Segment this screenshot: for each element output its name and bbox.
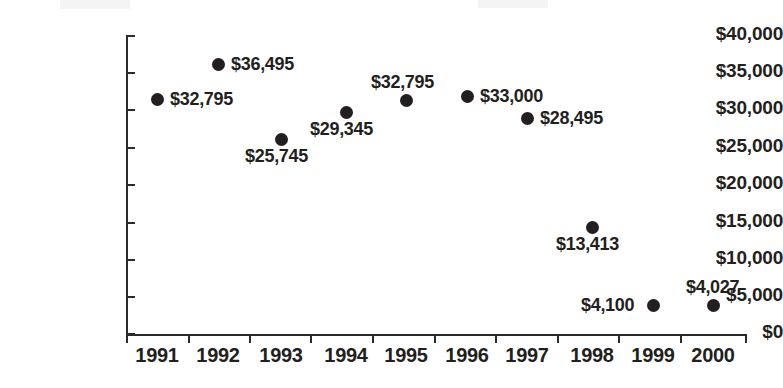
x-axis-tick (557, 334, 559, 343)
x-axis-tick (434, 334, 436, 343)
y-axis-tick (126, 72, 135, 74)
x-axis-tick (745, 334, 747, 343)
x-axis-tick-label: 2000 (673, 344, 753, 367)
y-axis-tick-label: $40,000 (665, 23, 783, 45)
scan-artifact (60, 0, 130, 9)
data-point-label: $29,345 (310, 119, 373, 140)
data-point[interactable] (707, 299, 720, 312)
data-point-label: $32,795 (170, 89, 233, 110)
y-axis-line (126, 36, 128, 336)
y-axis-tick-label: $15,000 (665, 210, 783, 232)
data-point[interactable] (400, 94, 413, 107)
data-point-label: $33,000 (480, 86, 543, 107)
data-point-label: $28,495 (540, 108, 603, 129)
x-axis-tick (618, 334, 620, 343)
data-point-label: $25,745 (245, 146, 308, 167)
data-point[interactable] (151, 93, 164, 106)
y-axis-tick-label: $25,000 (665, 135, 783, 157)
data-point-label: $4,100 (581, 295, 634, 316)
data-point-label: $4,027 (686, 277, 739, 298)
data-point[interactable] (212, 58, 225, 71)
data-point[interactable] (586, 221, 599, 234)
y-axis-tick (126, 147, 135, 149)
x-axis-tick (680, 334, 682, 343)
y-axis-tick (126, 35, 135, 37)
y-axis-tick-label: $0 (665, 321, 783, 343)
y-axis-tick (126, 259, 135, 261)
y-axis-tick-label: $20,000 (665, 172, 783, 194)
y-axis-tick (126, 184, 135, 186)
y-axis-tick (126, 222, 135, 224)
data-point-label: $36,495 (231, 54, 294, 75)
scatter-chart: $40,000$35,000$30,000$25,000$20,000$15,0… (0, 0, 783, 388)
data-point-label: $32,795 (371, 72, 434, 93)
data-point[interactable] (647, 299, 660, 312)
data-point[interactable] (461, 90, 474, 103)
x-axis-tick (372, 334, 374, 343)
data-point-label: $13,413 (556, 234, 619, 255)
x-axis-tick (495, 334, 497, 343)
y-axis-tick-label: $30,000 (665, 97, 783, 119)
data-point[interactable] (521, 112, 534, 125)
x-axis-tick (126, 334, 128, 343)
x-axis-tick (310, 334, 312, 343)
y-axis-tick (126, 296, 135, 298)
y-axis-tick (126, 109, 135, 111)
data-point[interactable] (275, 133, 288, 146)
scan-artifact (478, 0, 548, 8)
x-axis-tick (188, 334, 190, 343)
x-axis-tick (249, 334, 251, 343)
y-axis-tick-label: $35,000 (665, 60, 783, 82)
data-point[interactable] (340, 106, 353, 119)
y-axis-tick-label: $10,000 (665, 247, 783, 269)
